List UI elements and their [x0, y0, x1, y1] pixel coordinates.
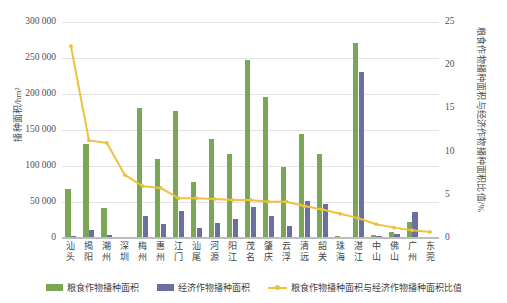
- x-axis-labels: 汕头揭阳潮州深圳梅州惠州江门汕尾河源阳江茂名肇庆云浮清远韶关珠海湛江中山佛山广州…: [62, 241, 439, 275]
- y-tick-left: 200 000: [25, 89, 62, 99]
- y-tick-right: 5: [439, 190, 450, 200]
- legend-item-label: 经济作物播种面积: [178, 281, 250, 294]
- y-axis-left-title: 播种面积/hm²: [11, 50, 24, 180]
- ratio-line-marker: [231, 198, 235, 202]
- y-tick-left: 250 000: [25, 53, 62, 63]
- gridline: [62, 238, 439, 239]
- ratio-line-marker: [320, 208, 324, 212]
- y-tick-left: 100 000: [25, 161, 62, 171]
- x-tick-label: 佛山: [387, 241, 401, 263]
- ratio-line-marker: [356, 216, 360, 220]
- y-tick-right: 0: [439, 233, 450, 243]
- x-tick-label: 茂名: [244, 241, 258, 263]
- x-tick-label: 揭阳: [82, 241, 96, 263]
- ratio-line-series: [62, 22, 439, 238]
- y-tick-right: 25: [439, 17, 455, 27]
- ratio-line-marker: [159, 186, 163, 190]
- x-tick-label: 河源: [208, 241, 222, 263]
- y-tick-right: 20: [439, 60, 455, 70]
- ratio-line-marker: [195, 196, 199, 200]
- y-axis-right-title: 粮食作物播种面积与经济作物播种面积比值/%: [475, 27, 488, 202]
- x-tick-label: 云浮: [279, 241, 293, 263]
- y-tick-right: 15: [439, 103, 455, 113]
- ratio-line-marker: [141, 184, 145, 188]
- y-tick-left: 150 000: [25, 125, 62, 135]
- x-tick-label: 深圳: [118, 241, 132, 263]
- plot-area: 050 000100 000150 000200 000250 000300 0…: [62, 22, 439, 238]
- ratio-line-marker: [87, 138, 91, 142]
- legend-item[interactable]: 粮食作物播种面积: [46, 281, 139, 294]
- x-tick-label: 潮州: [100, 241, 114, 263]
- x-tick-label: 清远: [297, 241, 311, 263]
- x-tick-label: 阳江: [226, 241, 240, 263]
- ratio-line-marker: [123, 173, 127, 177]
- ratio-line-marker: [105, 141, 109, 145]
- legend-bar-swatch-icon: [46, 284, 63, 291]
- ratio-line-marker: [249, 198, 253, 202]
- x-tick-label: 湛江: [351, 241, 365, 263]
- legend-item[interactable]: 粮食作物播种面积与经济作物播种面积比值: [268, 281, 462, 294]
- y-tick-left: 300 000: [25, 17, 62, 27]
- legend-item-label: 粮食作物播种面积: [67, 281, 139, 294]
- x-tick-label: 肇庆: [261, 241, 275, 263]
- y-tick-left: 0: [51, 233, 62, 243]
- bar-line-combo-chart: 播种面积/hm² 粮食作物播种面积与经济作物播种面积比值/% 050 00010…: [0, 0, 507, 303]
- x-tick-label: 梅州: [136, 241, 150, 263]
- ratio-line-marker: [69, 44, 73, 48]
- legend-item-label: 粮食作物播种面积与经济作物播种面积比值: [291, 281, 462, 294]
- ratio-line-marker: [410, 228, 414, 232]
- x-tick-label: 广州: [405, 241, 419, 263]
- ratio-line-marker: [374, 222, 378, 226]
- x-tick-label: 珠海: [333, 241, 347, 263]
- x-tick-label: 韶关: [315, 241, 329, 263]
- ratio-line-marker: [428, 230, 432, 234]
- legend-line-swatch-icon: [268, 284, 287, 291]
- ratio-line-marker: [267, 200, 271, 204]
- ratio-line-path: [71, 46, 430, 232]
- ratio-line-marker: [302, 204, 306, 208]
- x-tick-label: 惠州: [154, 241, 168, 263]
- chart-legend: 粮食作物播种面积经济作物播种面积粮食作物播种面积与经济作物播种面积比值: [0, 281, 507, 294]
- x-tick-label: 汕尾: [190, 241, 204, 263]
- x-tick-label: 江门: [172, 241, 186, 263]
- legend-item[interactable]: 经济作物播种面积: [157, 281, 250, 294]
- ratio-line-marker: [392, 226, 396, 230]
- y-tick-left: 50 000: [30, 197, 62, 207]
- ratio-line-marker: [177, 196, 181, 200]
- y-tick-right: 10: [439, 147, 455, 157]
- x-tick-label: 汕头: [64, 241, 78, 263]
- ratio-line-marker: [213, 197, 217, 201]
- ratio-line-marker: [338, 212, 342, 216]
- x-tick-label: 东莞: [423, 241, 437, 263]
- ratio-line-marker: [285, 200, 289, 204]
- x-tick-label: 中山: [369, 241, 383, 263]
- x-axis-baseline: [62, 237, 439, 238]
- legend-bar-swatch-icon: [157, 284, 174, 291]
